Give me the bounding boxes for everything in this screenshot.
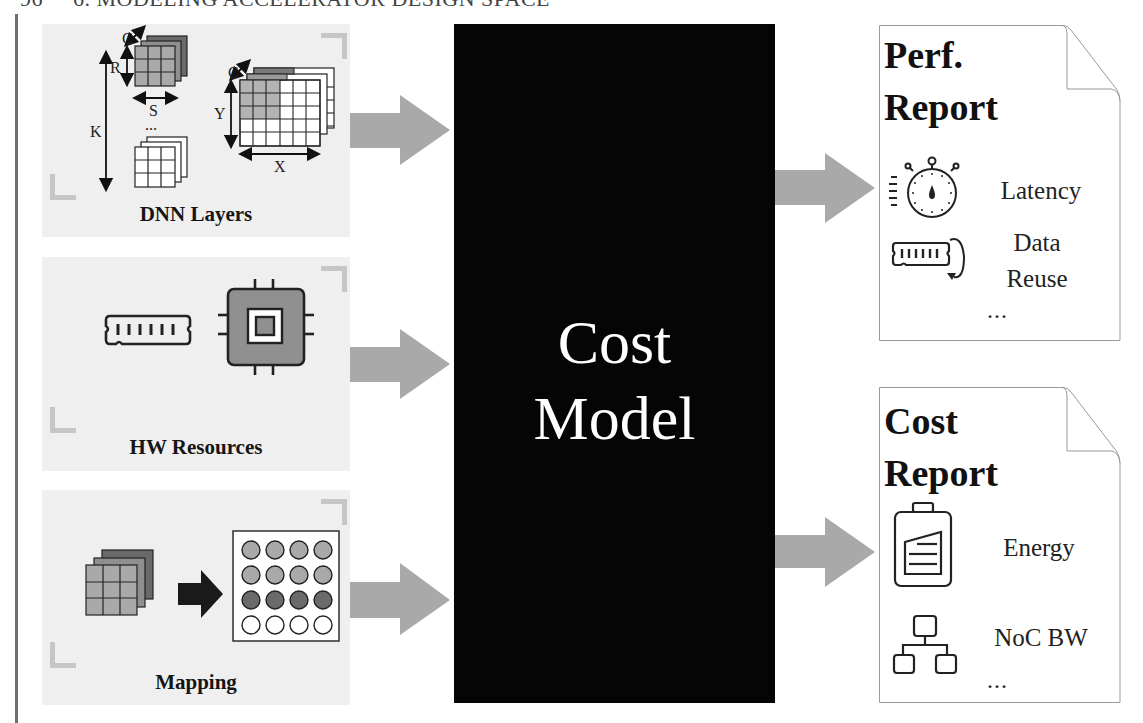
mapping-label: Mapping xyxy=(42,670,350,695)
battery-icon xyxy=(893,502,955,588)
corner-mark xyxy=(50,428,76,433)
dnn-layers-panel: C R S K ... C Y X xyxy=(42,24,350,237)
margin-bar xyxy=(15,14,18,723)
dnn-layers-label: DNN Layers xyxy=(42,202,350,227)
svg-text:X: X xyxy=(274,158,286,175)
mapping-panel: Mapping xyxy=(42,490,350,705)
hw-resources-panel: HW Resources xyxy=(42,257,350,471)
perf-report: Perf. Report Latency xyxy=(879,25,1121,341)
perf-report-title: Perf. Report xyxy=(884,29,998,133)
cost-model-block: Cost Model xyxy=(454,24,775,703)
memory-reuse-icon xyxy=(892,237,972,283)
svg-text:C: C xyxy=(122,30,133,47)
memory-module-icon xyxy=(104,312,194,352)
svg-text:...: ... xyxy=(145,116,157,133)
page-header: 96 6. MODELING ACCELERATOR DESIGN SPACE xyxy=(20,0,550,12)
hw-resources-label: HW Resources xyxy=(42,435,350,460)
more-metrics-ellipsis: ... xyxy=(987,667,1008,694)
corner-mark xyxy=(50,663,76,668)
arrow-cost-model-to-perf-report xyxy=(775,153,879,225)
arrow-cost-model-to-cost-report xyxy=(775,517,879,589)
cost-model-title: Cost Model xyxy=(454,304,775,456)
stopwatch-icon xyxy=(889,155,965,225)
dnn-tensor-icon: C R S K ... C Y X xyxy=(42,24,350,204)
data-reuse-label: Data Reuse xyxy=(987,225,1087,297)
svg-text:C: C xyxy=(228,64,239,81)
arrow-dnn-to-cost-model xyxy=(350,95,454,167)
cost-report-title: Cost Report xyxy=(884,395,998,499)
svg-text:R: R xyxy=(110,59,121,76)
right-arrow-icon xyxy=(176,570,226,620)
corner-mark xyxy=(342,499,347,525)
corner-mark xyxy=(342,266,347,292)
arrow-hw-to-cost-model xyxy=(350,329,454,401)
chapter-title: 6. MODELING ACCELERATOR DESIGN SPACE xyxy=(73,0,550,11)
svg-text:Y: Y xyxy=(214,105,226,122)
more-metrics-ellipsis: ... xyxy=(987,297,1008,324)
latency-label: Latency xyxy=(981,173,1101,209)
cost-report: Cost Report Energy NoC BW ... xyxy=(879,387,1121,703)
noc-bandwidth-label: NoC BW xyxy=(971,620,1111,656)
energy-label: Energy xyxy=(979,530,1099,566)
svg-text:K: K xyxy=(90,123,102,140)
tensor-stack-icon xyxy=(86,550,166,620)
pe-array-icon xyxy=(232,530,342,642)
network-hierarchy-icon xyxy=(893,615,959,675)
processor-chip-icon xyxy=(216,277,316,377)
page-number: 96 xyxy=(20,0,43,11)
arrow-mapping-to-cost-model xyxy=(350,563,454,637)
